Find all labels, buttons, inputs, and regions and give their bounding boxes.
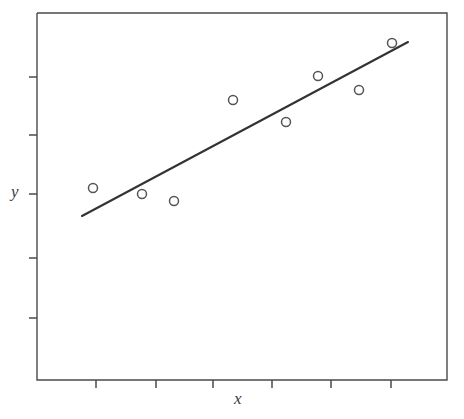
regression-line [82,42,408,216]
data-point-marker [138,190,147,199]
y-axis-ticks [29,77,37,318]
data-point-marker [314,72,323,81]
x-axis-label: x [234,390,242,407]
regression-line-group [82,42,408,216]
data-point-marker [170,197,179,206]
axes-frame [37,13,447,380]
data-point-marker [282,118,291,127]
y-axis-label: y [11,183,19,200]
data-point-marker [355,86,364,95]
data-point-group [89,39,397,206]
plot-canvas [0,0,464,419]
axes-frame-path [37,13,447,380]
scatter-plot-figure: y x [0,0,464,419]
data-point-marker [229,96,238,105]
data-point-marker [388,39,397,48]
data-point-marker [89,184,98,193]
x-axis-ticks [96,380,391,388]
